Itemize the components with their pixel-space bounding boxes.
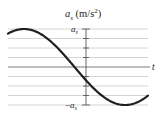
acceleration-chart: as (m/s2) as −as t xyxy=(0,0,159,118)
y-axis-label: as (m/s2) xyxy=(65,7,102,22)
y-max-label: as xyxy=(71,24,79,35)
x-axis-label: t xyxy=(152,62,155,72)
y-min-label: −as xyxy=(65,100,78,111)
